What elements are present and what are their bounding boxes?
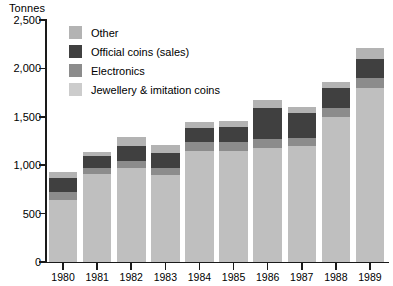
x-axis-tick-label: 1983 [154,271,177,283]
x-axis-tick [301,263,303,270]
bar-segment [253,148,282,262]
x-axis-tick [233,263,235,270]
bar-1989 [356,48,385,262]
bar-segment [219,121,248,128]
x-axis-tick-label: 1988 [324,271,347,283]
bar-segment [322,117,351,262]
legend-swatch-icon [69,64,82,77]
y-axis-tick [39,213,46,215]
legend-label: Other [91,27,119,39]
bar-segment [288,138,317,147]
legend-label: Jewellery & imitation coins [91,84,220,96]
y-axis-tick [39,19,46,21]
legend-item: Official coins (sales) [69,42,220,61]
bar-segment [253,139,282,148]
x-axis-tick [267,263,269,270]
x-axis-tick-label: 1987 [290,271,313,283]
bar-segment [151,153,180,168]
bar-1988 [322,82,351,262]
x-axis-tick [369,263,371,270]
bar-1986 [253,100,282,262]
bar-segment [49,192,78,200]
y-axis-tick-label: 500 [0,208,41,220]
bar-segment [322,108,351,117]
bar-segment [356,88,385,262]
bar-segment [117,137,146,146]
bar-segment [49,178,78,192]
x-axis-tick [62,263,64,270]
bar-1981 [83,152,112,262]
bar-segment [288,113,317,137]
x-axis-tick [199,263,201,270]
bar-segment [49,200,78,262]
bar-segment [151,145,180,153]
bar-segment [83,156,112,168]
bar-segment [356,48,385,59]
legend-swatch-icon [69,83,82,96]
bar-1985 [219,121,248,262]
x-axis-tick [335,263,337,270]
bar-segment [185,142,214,150]
bar-segment [219,142,248,150]
bar-1984 [185,122,214,262]
y-axis-tick [39,116,46,118]
y-axis-tick-label: 2,500 [0,14,41,26]
bar-segment [151,175,180,262]
bar-segment [83,152,112,156]
x-axis-tick [96,263,98,270]
bar-segment [219,127,248,142]
y-axis-tick-label: 2,000 [0,62,41,74]
y-axis-labels: 05001,0001,5002,0002,500 [0,0,41,286]
bar-1980 [49,172,78,262]
x-axis-tick-label: 1985 [222,271,245,283]
bar-segment [219,151,248,262]
bar-segment [322,88,351,107]
x-axis-tick-label: 1982 [120,271,143,283]
legend-label: Official coins (sales) [91,46,189,58]
bar-1982 [117,137,146,262]
y-axis-tick [39,261,46,263]
bar-segment [83,174,112,262]
legend-label: Electronics [91,65,145,77]
bar-segment [356,78,385,88]
bar-segment [185,128,214,143]
legend-item: Jewellery & imitation coins [69,80,220,99]
x-axis-tick-label: 1989 [358,271,381,283]
x-axis-tick [130,263,132,270]
y-axis-tick [39,164,46,166]
x-axis-tick-label: 1984 [188,271,211,283]
legend-item: Other [69,23,220,42]
bar-segment [322,82,351,88]
y-axis-tick-label: 1,500 [0,111,41,123]
bar-segment [49,172,78,178]
bar-segment [253,100,282,107]
x-axis-tick-label: 1980 [51,271,74,283]
bar-segment [117,146,146,161]
legend-swatch-icon [69,26,82,39]
legend-swatch-icon [69,45,82,58]
chart-legend: OtherOfficial coins (sales)ElectronicsJe… [69,23,220,99]
bar-segment [117,168,146,262]
bar-segment [185,122,214,128]
y-axis-tick-label: 1,000 [0,159,41,171]
bar-segment [151,168,180,175]
y-axis-tick-label: 0 [0,256,41,268]
legend-item: Electronics [69,61,220,80]
stacked-bar-chart: Tonnes 05001,0001,5002,0002,500 19801981… [0,0,393,286]
bar-1983 [151,145,180,262]
x-axis-tick [165,263,167,270]
bar-segment [117,161,146,168]
x-axis-tick-label: 1981 [85,271,108,283]
bar-segment [288,107,317,114]
bar-segment [253,108,282,139]
y-axis-tick [39,68,46,70]
x-axis-tick-label: 1986 [256,271,279,283]
bar-1987 [288,107,317,262]
bar-segment [356,59,385,78]
bar-segment [288,146,317,262]
bar-segment [83,168,112,174]
bar-segment [185,151,214,262]
